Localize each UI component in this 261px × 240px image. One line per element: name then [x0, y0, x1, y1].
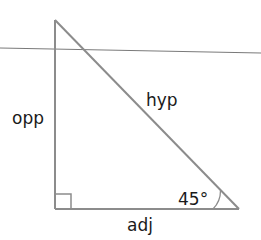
angle-arc	[213, 191, 221, 210]
opp-label: opp	[12, 108, 44, 128]
hyp-label: hyp	[146, 90, 178, 110]
reference-line	[0, 48, 261, 53]
adj-label: adj	[127, 215, 153, 235]
right-angle-marker	[55, 194, 71, 209]
angle-label: 45°	[178, 189, 208, 209]
hypotenuse-side	[55, 20, 239, 209]
triangle-diagram: opp hyp 45° adj	[0, 0, 261, 240]
